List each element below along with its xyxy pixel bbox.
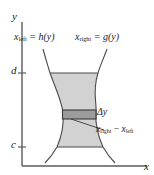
left-curve-label-subscript: left: [18, 35, 26, 42]
region-between-curves-figure: y x d c xleft = h(y) xright = g(y) Δy xr…: [0, 0, 154, 175]
y-axis-label: y: [12, 10, 17, 22]
left-curve-label: xleft = h(y): [14, 31, 55, 42]
tick-label-c: c: [11, 138, 16, 150]
strip-width-label: xright − xleft: [96, 124, 134, 134]
left-curve-label-equation: = h(y): [27, 31, 55, 42]
strip-width-first-subscript: right: [100, 128, 111, 134]
delta-y-strip: [63, 110, 97, 119]
strip-width-second-subscript: left: [126, 128, 134, 134]
figure-canvas: [0, 0, 154, 175]
right-curve-label: xright = g(y): [75, 31, 119, 42]
strip-width-minus: −: [111, 124, 121, 134]
right-curve-label-equation: = g(y): [91, 31, 119, 42]
tick-label-d: d: [11, 64, 17, 76]
x-axis-label: x: [144, 160, 149, 172]
delta-y-label: Δy: [97, 106, 107, 117]
right-curve-label-subscript: right: [79, 35, 91, 42]
